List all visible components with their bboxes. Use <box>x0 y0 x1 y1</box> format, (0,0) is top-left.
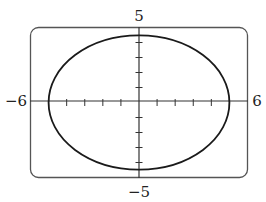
x-max-label: 6 <box>252 92 262 110</box>
x-min-label: −6 <box>5 92 27 110</box>
y-min-label: −5 <box>128 183 150 201</box>
y-max-label: 5 <box>134 7 144 25</box>
ellipse-graph: 5 −5 −6 6 <box>0 0 266 202</box>
